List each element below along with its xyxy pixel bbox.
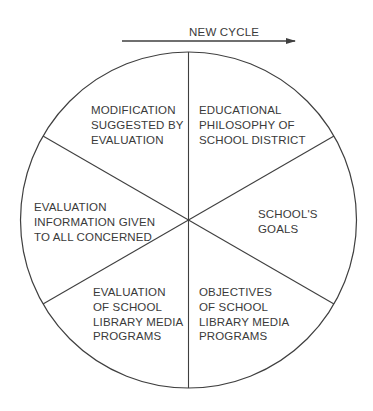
segment-line: OF SCHOOL: [199, 300, 289, 315]
segment-line: LIBRARY MEDIA: [93, 315, 183, 330]
segment-educational-philosophy: EDUCATIONAL PHILOSOPHY OF SCHOOL DISTRIC…: [199, 103, 306, 147]
segment-line: EVALUATION: [34, 200, 155, 215]
segment-objectives: OBJECTIVES OF SCHOOL LIBRARY MEDIA PROGR…: [199, 285, 289, 344]
segment-line: MODIFICATION: [91, 103, 184, 118]
segment-evaluation-information: EVALUATION INFORMATION GIVEN TO ALL CONC…: [34, 200, 155, 244]
segment-line: EVALUATION: [93, 285, 183, 300]
segment-line: INFORMATION GIVEN: [34, 215, 155, 230]
segment-modification: MODIFICATION SUGGESTED BY EVALUATION: [91, 103, 184, 147]
segment-line: EVALUATION: [91, 133, 184, 148]
segment-line: PROGRAMS: [199, 329, 289, 344]
segment-line: LIBRARY MEDIA: [199, 315, 289, 330]
segment-line: EDUCATIONAL: [199, 103, 306, 118]
new-cycle-label: NEW CYCLE: [189, 26, 259, 39]
segment-line: OF SCHOOL: [93, 300, 183, 315]
segment-schools-goals: SCHOOL'S GOALS: [258, 207, 318, 237]
segment-line: OBJECTIVES: [199, 285, 289, 300]
segment-line: SUGGESTED BY: [91, 118, 184, 133]
segment-line: PHILOSOPHY OF: [199, 118, 306, 133]
segment-line: TO ALL CONCERNED: [34, 230, 155, 245]
segment-line: GOALS: [258, 222, 318, 237]
segment-line: SCHOOL DISTRICT: [199, 133, 306, 148]
segment-line: SCHOOL'S: [258, 207, 318, 222]
segment-evaluation-programs: EVALUATION OF SCHOOL LIBRARY MEDIA PROGR…: [93, 285, 183, 344]
segment-line: PROGRAMS: [93, 329, 183, 344]
